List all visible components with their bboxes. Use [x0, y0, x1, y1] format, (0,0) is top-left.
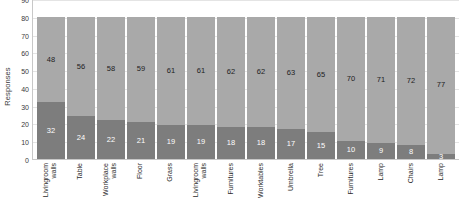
x-axis-label-cell: Umbrella: [277, 162, 304, 224]
x-axis-label-cell: Furnitures: [217, 162, 244, 224]
bar-column[interactable]: 4832: [37, 0, 64, 159]
bar-column[interactable]: 6218: [247, 0, 274, 159]
x-axis-label-text: Tree: [317, 163, 325, 221]
y-axis-tick-20: 20: [21, 121, 29, 128]
bar-value-label-lower: 10: [347, 146, 355, 154]
bar-stack[interactable]: 6317: [277, 17, 304, 159]
bar-segment-upper[interactable]: 70: [337, 17, 364, 141]
bar-value-label-lower: 8: [409, 148, 413, 156]
bar-segment-upper[interactable]: 63: [277, 17, 304, 129]
bar-column[interactable]: 7010: [337, 0, 364, 159]
y-axis-title: Responses: [0, 0, 14, 172]
bar-column[interactable]: 719: [367, 0, 394, 159]
bar-column[interactable]: 6218: [217, 0, 244, 159]
bar-segment-upper[interactable]: 77: [427, 17, 454, 154]
x-axis-label-cell: Floor: [127, 162, 154, 224]
bar-segment-upper[interactable]: 62: [247, 17, 274, 127]
y-axis-tick-40: 40: [21, 85, 29, 92]
y-axis-tick-labels: 9080706050403020100: [14, 0, 31, 160]
bar-column[interactable]: 5624: [67, 0, 94, 159]
bar-stack[interactable]: 6515: [307, 17, 334, 159]
x-axis-label-cell: Table: [66, 162, 93, 224]
bar-segment-lower[interactable]: 19: [157, 125, 184, 159]
bar-segment-lower[interactable]: 18: [217, 127, 244, 159]
bar-column[interactable]: 6317: [277, 0, 304, 159]
bar-segment-upper[interactable]: 65: [307, 17, 334, 133]
x-axis-label-cell: Lamp: [427, 162, 454, 224]
bar-value-label-lower: 19: [167, 138, 175, 146]
bar-segment-lower[interactable]: 24: [67, 116, 94, 159]
x-axis-label-cell: Tree: [307, 162, 334, 224]
bar-value-label-lower: 18: [257, 139, 265, 147]
bar-segment-upper[interactable]: 62: [217, 17, 244, 127]
bar-value-label-upper: 63: [287, 69, 295, 77]
bar-segment-upper[interactable]: 56: [67, 17, 94, 117]
bar-segment-lower[interactable]: 9: [367, 143, 394, 159]
bar-column[interactable]: 6515: [307, 0, 334, 159]
bar-segment-lower[interactable]: 10: [337, 141, 364, 159]
bars-container: 4832562458225921611961196218621863176515…: [33, 0, 459, 159]
bar-stack[interactable]: 6119: [187, 17, 214, 159]
y-axis-tick-10: 10: [21, 139, 29, 146]
bar-segment-upper[interactable]: 61: [157, 17, 184, 125]
bar-segment-lower[interactable]: 15: [307, 132, 334, 159]
bar-segment-lower[interactable]: 19: [187, 125, 214, 159]
bar-column[interactable]: 5822: [97, 0, 124, 159]
x-axis-label-text: Furnitures: [347, 163, 355, 221]
x-axis-label-text: Lamp: [377, 163, 385, 221]
bar-stack[interactable]: 5822: [97, 17, 124, 159]
bar-segment-upper[interactable]: 72: [397, 17, 424, 145]
x-axis-label-cell: Workplace walls: [97, 162, 124, 224]
y-axis-title-text: Responses: [3, 67, 12, 105]
bar-segment-upper[interactable]: 58: [97, 17, 124, 120]
x-axis-label-text: Floor: [136, 163, 144, 221]
bar-segment-lower[interactable]: 8: [397, 145, 424, 159]
bar-segment-upper[interactable]: 59: [127, 17, 154, 122]
bar-stack[interactable]: 5624: [67, 17, 94, 159]
x-axis-label-cell: Lamp: [367, 162, 394, 224]
x-axis-label-text: Grass: [167, 163, 175, 221]
bar-column[interactable]: 773: [427, 0, 454, 159]
bar-value-label-upper: 65: [317, 71, 325, 79]
bar-stack[interactable]: 5921: [127, 17, 154, 159]
bar-segment-lower[interactable]: 22: [97, 120, 124, 159]
bar-value-label-upper: 77: [437, 81, 445, 89]
bar-value-label-lower: 15: [317, 142, 325, 150]
bar-value-label-lower: 17: [287, 140, 295, 148]
bar-stack[interactable]: 728: [397, 17, 424, 159]
bar-column[interactable]: 6119: [187, 0, 214, 159]
bar-column[interactable]: 5921: [127, 0, 154, 159]
bar-value-label-upper: 61: [167, 67, 175, 75]
bar-value-label-upper: 71: [377, 76, 385, 84]
bar-segment-upper[interactable]: 61: [187, 17, 214, 125]
x-axis-label-cell: Chairs: [397, 162, 424, 224]
bar-column[interactable]: 728: [397, 0, 424, 159]
bar-value-label-upper: 62: [227, 68, 235, 76]
bar-value-label-upper: 56: [77, 63, 85, 71]
bar-column[interactable]: 6119: [157, 0, 184, 159]
bar-value-label-lower: 3: [439, 154, 443, 159]
bar-stack[interactable]: 6119: [157, 17, 184, 159]
y-axis-tick-0: 0: [25, 157, 29, 164]
bar-stack[interactable]: 6218: [217, 17, 244, 159]
bar-segment-lower[interactable]: 32: [37, 102, 64, 159]
bar-value-label-upper: 72: [407, 77, 415, 85]
y-axis-tick-70: 70: [21, 32, 29, 39]
bar-segment-lower[interactable]: 21: [127, 122, 154, 159]
bar-segment-upper[interactable]: 71: [367, 17, 394, 143]
x-axis-label-cell: Grass: [157, 162, 184, 224]
bar-stack[interactable]: 4832: [37, 17, 64, 159]
bar-stack[interactable]: 6218: [247, 17, 274, 159]
bar-stack[interactable]: 719: [367, 17, 394, 159]
bar-segment-lower[interactable]: 3: [427, 154, 454, 159]
x-axis-label-text: Worktables: [257, 163, 265, 221]
bar-stack[interactable]: 7010: [337, 17, 364, 159]
x-axis-label-text: Chairs: [407, 163, 415, 221]
bar-segment-lower[interactable]: 18: [247, 127, 274, 159]
x-axis-label-text: Umbrella: [287, 163, 295, 221]
x-axis-label-text: Workplace walls: [103, 163, 118, 221]
bar-value-label-upper: 62: [257, 68, 265, 76]
bar-stack[interactable]: 773: [427, 17, 454, 159]
bar-segment-lower[interactable]: 17: [277, 129, 304, 159]
bar-segment-upper[interactable]: 48: [37, 17, 64, 102]
